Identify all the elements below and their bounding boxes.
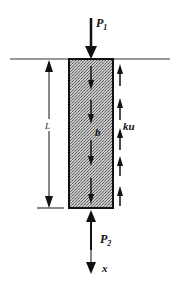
skin-friction-arrows-icon — [117, 64, 123, 206]
top-load-label: P1 — [96, 16, 107, 32]
length-label: L — [44, 121, 50, 131]
skin-friction-label: ku — [123, 120, 135, 132]
body-force-label: b — [95, 126, 101, 138]
x-axis-label: x — [101, 262, 108, 274]
pile-diagram: P1 L b ku P2 x — [0, 0, 170, 291]
bottom-load-label: P2 — [100, 232, 111, 248]
bottom-load-arrow-icon — [86, 210, 96, 250]
x-axis-arrow-icon — [86, 250, 96, 274]
length-dimension-icon — [37, 60, 64, 208]
